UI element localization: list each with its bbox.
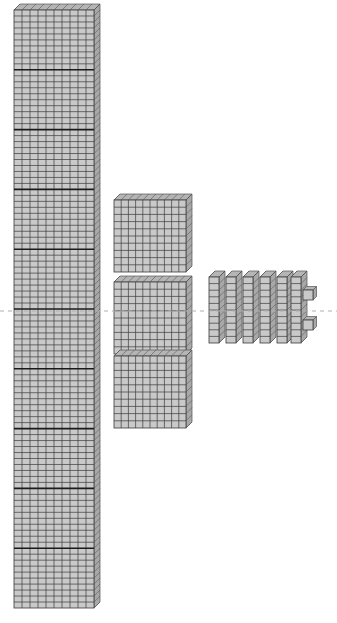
- rod-4: [260, 271, 276, 343]
- flat-2: [114, 276, 192, 354]
- base-ten-blocks-figure: [0, 0, 337, 623]
- rod-2: [226, 271, 242, 343]
- blocks-canvas: [0, 0, 337, 623]
- flat-1: [114, 194, 192, 272]
- rod-3: [243, 271, 259, 343]
- tens-rods: [209, 271, 307, 343]
- unit-cube-1: [303, 287, 317, 301]
- rod-1: [209, 271, 225, 343]
- thousands-column: [14, 4, 100, 608]
- unit-cube-2: [303, 317, 317, 331]
- flat-3: [114, 350, 192, 428]
- rod-6: [291, 271, 307, 343]
- thousands-cube-stack: [14, 4, 100, 608]
